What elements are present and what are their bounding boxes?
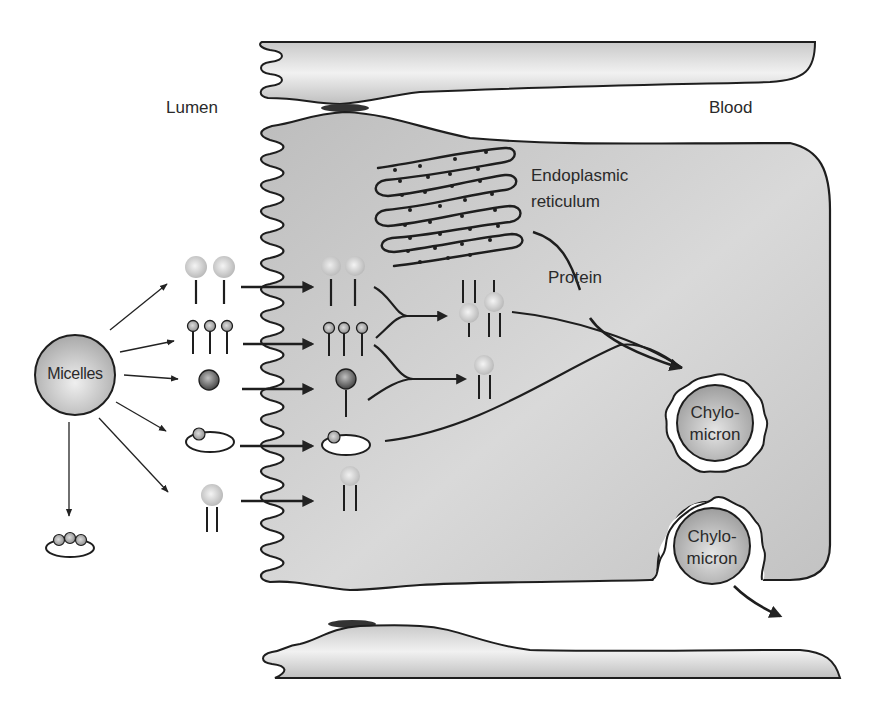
- monoglyceride-trio: [188, 321, 233, 355]
- cholesterol-ester-ring: [186, 428, 234, 452]
- bile-salt-ring: [46, 533, 94, 558]
- tight-junction-top: [321, 104, 369, 112]
- cholesterol-molecule: [199, 370, 219, 390]
- neighbor-cell-bottom: [263, 625, 840, 678]
- chylomicron-1-label-line2: micron: [677, 425, 753, 445]
- micelles-label: Micelles: [33, 364, 117, 384]
- protein-label: Protein: [548, 268, 602, 288]
- phospholipid: [201, 484, 223, 532]
- chylomicron-inside: [666, 374, 768, 472]
- neighbor-cell-top: [260, 42, 815, 104]
- chylomicron-2-label-line2: micron: [674, 549, 750, 569]
- fatty-acid-pair: [185, 256, 235, 304]
- chylomicron-1-label-line1: Chylo-: [677, 403, 753, 423]
- chylomicron-2-label-line1: Chylo-: [674, 527, 750, 547]
- exocytosis-arrow: [734, 586, 780, 616]
- er-label-line2: reticulum: [531, 192, 600, 212]
- er-label-line1: Endoplasmic: [531, 166, 628, 186]
- blood-label: Blood: [709, 98, 752, 118]
- lumen-molecules: [185, 256, 235, 532]
- lumen-label: Lumen: [166, 98, 218, 118]
